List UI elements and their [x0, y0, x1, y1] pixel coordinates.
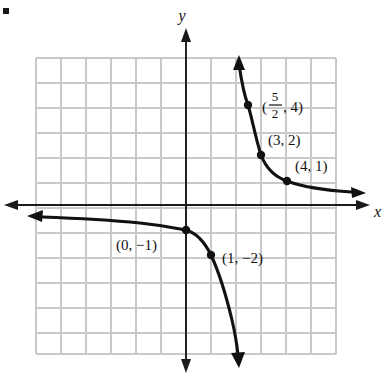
y-axis-arrow-up	[181, 28, 191, 42]
curve-right-branch	[233, 55, 366, 198]
y-axis-label: y	[176, 7, 186, 25]
curve-left-end-arrow	[27, 210, 43, 222]
fraction-numerator: 5	[272, 89, 279, 104]
bullet-marker-icon	[3, 8, 9, 14]
curve-left-down-arrow	[231, 352, 245, 368]
fraction-denominator: 2	[272, 106, 279, 121]
point-4-1	[283, 177, 291, 185]
label-point-five-halves-4: ( 5 2 , 4)	[262, 89, 303, 121]
label-point-4-1: (4, 1)	[295, 158, 328, 175]
x-axis-arrow-left	[4, 200, 18, 210]
x-axis-arrow-right	[356, 200, 370, 210]
point-five-halves-4	[244, 101, 252, 109]
label-rest: , 4)	[283, 99, 303, 116]
y-axis-arrow-down	[181, 359, 191, 373]
label-point-0-neg1: (0, −1)	[116, 237, 157, 254]
point-1-neg2	[207, 251, 215, 259]
label-open-paren: (	[262, 99, 267, 116]
graph-figure: y x ( 5 2 , 4) (3, 2) (4, 1) (0, −1) (1,…	[0, 0, 386, 374]
point-3-2	[257, 151, 265, 159]
x-axis-label: x	[373, 203, 381, 220]
label-point-3-2: (3, 2)	[268, 132, 301, 149]
curve-right-end-arrow	[351, 187, 366, 198]
point-0-neg1	[182, 226, 190, 234]
figure-container: y x ( 5 2 , 4) (3, 2) (4, 1) (0, −1) (1,…	[0, 0, 386, 374]
label-point-1-neg2: (1, −2)	[222, 250, 263, 267]
y-axis	[181, 28, 191, 373]
curve-right-up-arrow	[233, 55, 245, 70]
